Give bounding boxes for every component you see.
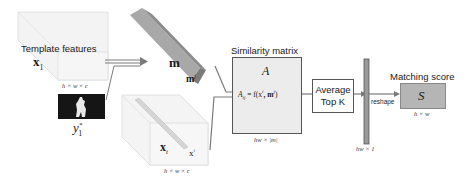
formula-rhs: = f(x (245, 90, 262, 99)
topk-line1: Average (313, 84, 353, 96)
template-dims: h × w × c (62, 82, 88, 89)
test-item: xi (189, 148, 195, 158)
hw-vector[interactable] (364, 59, 369, 144)
memory-item: mj (186, 73, 196, 84)
score-dims: h × w (414, 110, 429, 117)
reshape-label: reshape (371, 98, 395, 105)
vector-dims: hw × 1 (356, 145, 374, 152)
mask-label: y*1 (73, 120, 82, 138)
formula-m: , m (264, 90, 274, 99)
similarity-dims: hw × |m| (254, 136, 278, 143)
template-symbol: x1 (33, 54, 44, 72)
similarity-matrix-box[interactable]: A Aij = f(xi, mj) (232, 57, 302, 134)
template-symbol-sub: 1 (40, 63, 44, 72)
memory-symbol: m (169, 55, 180, 71)
test-dims: h × w × c (164, 167, 190, 174)
mask-sub: 1 (78, 129, 82, 138)
topk-line2: Top K (313, 96, 353, 108)
similarity-symbol: A (262, 64, 269, 79)
average-topk-box[interactable]: Average Top K (312, 79, 354, 113)
formula-close: ) (275, 90, 278, 99)
matching-score-box[interactable]: S (400, 83, 446, 109)
memory-item-sup: j (194, 73, 196, 79)
test-symbol-sub: t (166, 148, 168, 156)
score-symbol: S (418, 88, 425, 104)
template-features-title: Template features (21, 43, 97, 54)
test-item-sup: i (194, 148, 195, 153)
matching-score-title: Matching score (390, 71, 454, 82)
similarity-formula: Aij = f(xi, mj) (238, 89, 277, 100)
arrow-template-to-memory (105, 60, 140, 63)
similarity-title: Similarity matrix (231, 45, 298, 56)
test-symbol: xt (160, 140, 168, 156)
mask-sup: * (79, 121, 83, 129)
